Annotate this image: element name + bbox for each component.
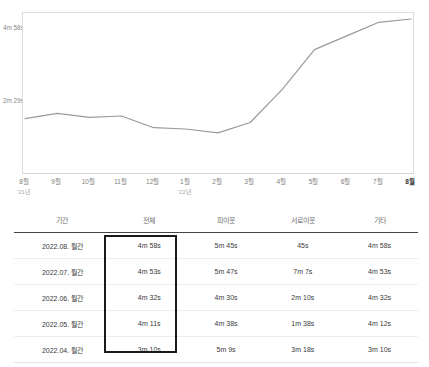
x-axis-tick-4: 12월: [146, 176, 159, 186]
line-chart-svg: [23, 13, 413, 173]
x-axis-tick-12: 8월: [405, 176, 415, 186]
column-header-etc: 기타: [341, 208, 418, 233]
plot-area: [22, 12, 414, 174]
row-etc: 4m 12s: [341, 311, 418, 337]
y-axis-tick-mid: 2m 29s: [3, 97, 24, 104]
row-mutual: 7m 7s: [264, 259, 341, 285]
x-axis-year-label-1: '22년: [178, 187, 192, 196]
x-axis-tick-3: 11월: [114, 176, 127, 186]
table-header-row: 기간 전체 피이웃 서로이웃 기타: [14, 208, 418, 233]
row-mutual: 2m 10s: [264, 285, 341, 311]
x-axis-tick-10: 6월: [341, 176, 351, 186]
row-peer: 4m 30s: [188, 285, 265, 311]
row-peer: 5m 9s: [188, 337, 265, 363]
x-axis-tick-8: 4월: [277, 176, 287, 186]
x-axis-tick-0: 8월: [19, 176, 29, 186]
x-axis-tick-2: 10월: [82, 176, 95, 186]
row-mutual: 1m 38s: [264, 311, 341, 337]
table-row: 2022.04. 월간3m 10s5m 9s3m 18s3m 10s: [14, 337, 418, 363]
row-etc: 4m 53s: [341, 259, 418, 285]
y-axis-tick-top: 4m 58s: [3, 24, 24, 31]
row-period: 2022.08. 월간: [14, 233, 111, 259]
table-row: 2022.08. 월간4m 58s5m 45s45s4m 58s: [14, 233, 418, 259]
stats-table-panel: 기간 전체 피이웃 서로이웃 기타 2022.08. 월간4m 58s5m 45…: [14, 208, 418, 360]
column-header-total: 전체: [111, 208, 188, 233]
x-axis-tick-7: 3월: [244, 176, 254, 186]
row-period: 2022.05. 월간: [14, 311, 111, 337]
row-total: 4m 53s: [111, 259, 188, 285]
row-period: 2022.06. 월간: [14, 285, 111, 311]
row-peer: 4m 38s: [188, 311, 265, 337]
series-line-total: [25, 19, 411, 133]
table-row: 2022.06. 월간4m 32s4m 30s2m 10s4m 32s: [14, 285, 418, 311]
x-axis-tick-11: 7월: [373, 176, 383, 186]
table-row: 2022.07. 월간4m 53s5m 47s7m 7s4m 53s: [14, 259, 418, 285]
row-etc: 4m 32s: [341, 285, 418, 311]
row-total: 3m 10s: [111, 337, 188, 363]
row-total: 4m 32s: [111, 285, 188, 311]
stats-table: 기간 전체 피이웃 서로이웃 기타 2022.08. 월간4m 58s5m 45…: [14, 208, 418, 363]
row-period: 2022.04. 월간: [14, 337, 111, 363]
row-period: 2022.07. 월간: [14, 259, 111, 285]
row-total: 4m 11s: [111, 311, 188, 337]
column-header-peer: 피이웃: [188, 208, 265, 233]
table-row: 2022.05. 월간4m 11s4m 38s1m 38s4m 12s: [14, 311, 418, 337]
x-axis-tick-6: 2월: [212, 176, 222, 186]
x-axis: 8월9월10월11월12월1월2월3월4월5월6월7월8월'21년'22년: [22, 176, 414, 204]
row-mutual: 45s: [264, 233, 341, 259]
x-axis-year-label-0: '21년: [17, 187, 31, 196]
row-etc: 3m 10s: [341, 337, 418, 363]
row-mutual: 3m 18s: [264, 337, 341, 363]
row-peer: 5m 45s: [188, 233, 265, 259]
x-axis-tick-1: 9월: [51, 176, 61, 186]
chart-panel: 4m 58s 2m 29s 8월9월10월11월12월1월2월3월4월5월6월7…: [0, 0, 429, 205]
x-axis-tick-5: 1월: [180, 176, 190, 186]
x-axis-tick-9: 5월: [309, 176, 319, 186]
table-body: 2022.08. 월간4m 58s5m 45s45s4m 58s2022.07.…: [14, 233, 418, 363]
row-peer: 5m 47s: [188, 259, 265, 285]
column-header-period: 기간: [14, 208, 111, 233]
column-header-mutual: 서로이웃: [264, 208, 341, 233]
row-total: 4m 58s: [111, 233, 188, 259]
row-etc: 4m 58s: [341, 233, 418, 259]
